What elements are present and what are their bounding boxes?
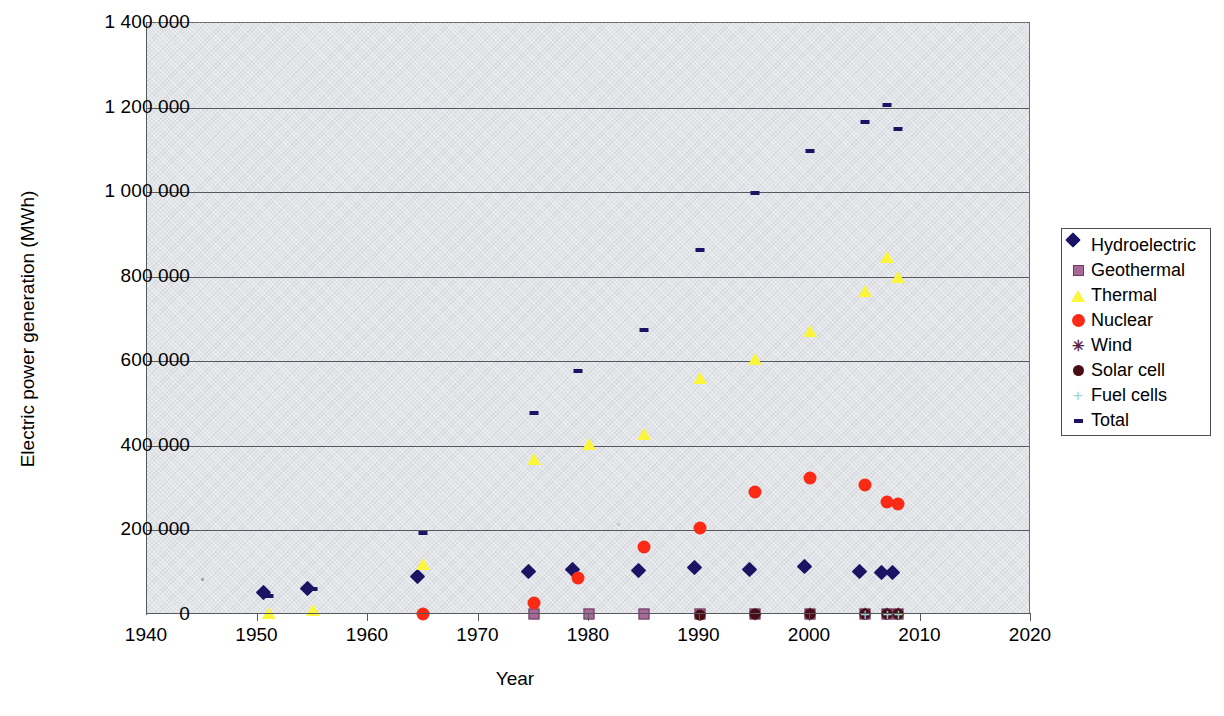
data-point xyxy=(638,541,651,554)
marker-triangle xyxy=(306,604,320,616)
data-point xyxy=(639,571,650,582)
x-axis-tick xyxy=(367,614,368,621)
marker-dash xyxy=(264,594,273,598)
legend-label: Solar cell xyxy=(1091,360,1165,381)
x-tick-label: 1970 xyxy=(456,624,498,646)
marker-triangle xyxy=(637,428,651,440)
y-axis-title: Electric power generation (MWh) xyxy=(17,49,39,609)
data-point xyxy=(637,428,651,440)
data-point xyxy=(892,498,905,511)
data-point xyxy=(419,531,428,535)
marker-plus: + xyxy=(1072,390,1084,402)
marker-dash xyxy=(695,248,704,252)
marker-diamond xyxy=(1065,232,1081,248)
data-point xyxy=(693,522,706,535)
y-tick-label: 800 000 xyxy=(60,265,190,287)
marker-dash xyxy=(419,531,428,535)
marker-circle-dark xyxy=(694,609,705,620)
x-tick-label: 1960 xyxy=(346,624,388,646)
legend-item-hydroelectric[interactable]: Hydroelectric xyxy=(1068,233,1210,258)
gridline xyxy=(147,108,1029,109)
legend-label: Thermal xyxy=(1091,285,1157,306)
marker-circle xyxy=(571,571,584,584)
legend-item-geothermal[interactable]: Geothermal xyxy=(1068,258,1210,283)
legend-label: Wind xyxy=(1091,335,1132,356)
y-tick-label: 400 000 xyxy=(60,434,190,456)
chart-legend: HydroelectricGeothermalThermalNuclear✳Wi… xyxy=(1061,228,1211,436)
marker-square xyxy=(1073,265,1084,276)
data-point xyxy=(573,369,582,373)
data-point xyxy=(694,609,705,620)
marker-diamond xyxy=(520,564,536,580)
marker-triangle xyxy=(693,372,707,384)
marker-dash xyxy=(806,149,815,153)
legend-item-fuel-cells[interactable]: +Fuel cells xyxy=(1068,383,1210,408)
data-point xyxy=(860,571,871,582)
y-tick-label: 200 000 xyxy=(60,518,190,540)
legend-item-solar-cell[interactable]: Solar cell xyxy=(1068,358,1210,383)
legend-marker-icon xyxy=(1068,311,1088,331)
data-point xyxy=(858,285,872,297)
data-point xyxy=(695,248,704,252)
data-point xyxy=(891,271,905,283)
data-point xyxy=(883,103,892,107)
legend-marker-icon xyxy=(1068,286,1088,306)
x-tick-label: 2010 xyxy=(898,624,940,646)
legend-item-total[interactable]: Total xyxy=(1068,408,1210,433)
legend-label: Total xyxy=(1091,410,1129,431)
legend-item-nuclear[interactable]: Nuclear xyxy=(1068,308,1210,333)
marker-diamond xyxy=(741,562,757,578)
marker-diamond xyxy=(631,563,647,579)
x-axis-tick xyxy=(809,614,810,621)
legend-item-thermal[interactable]: Thermal xyxy=(1068,283,1210,308)
marker-circle xyxy=(859,478,872,491)
marker-circle xyxy=(892,498,905,511)
data-point: + xyxy=(859,609,871,621)
marker-plus: + xyxy=(892,609,904,621)
legend-label: Fuel cells xyxy=(1091,385,1167,406)
marker-dash xyxy=(573,369,582,373)
marker-diamond xyxy=(410,569,426,585)
data-point xyxy=(416,558,430,570)
marker-triangle xyxy=(880,251,894,263)
data-point xyxy=(749,609,760,620)
artifact-speck xyxy=(201,578,204,581)
y-tick-label: 600 000 xyxy=(60,349,190,371)
x-axis-tick xyxy=(588,614,589,621)
artifact-speck xyxy=(617,523,620,526)
x-tick-label: 2000 xyxy=(788,624,830,646)
x-axis-tick xyxy=(478,614,479,621)
x-tick-label: 2020 xyxy=(1009,624,1051,646)
marker-circle xyxy=(527,597,540,610)
chart-figure: ✳✳✳✳✳+++ 0200 000400 000600 000800 0001 … xyxy=(0,0,1224,716)
legend-label: Hydroelectric xyxy=(1091,235,1196,256)
data-point xyxy=(803,325,817,337)
legend-marker-icon: + xyxy=(1068,386,1088,406)
legend-label: Geothermal xyxy=(1091,260,1185,281)
marker-circle-dark xyxy=(805,609,816,620)
x-axis-tick xyxy=(699,614,700,621)
data-point xyxy=(893,572,904,583)
x-tick-label: 1950 xyxy=(235,624,277,646)
data-point xyxy=(694,567,705,578)
marker-dash xyxy=(1074,419,1083,423)
data-point xyxy=(750,191,759,195)
legend-label: Nuclear xyxy=(1091,310,1153,331)
y-tick-label: 1 400 000 xyxy=(60,11,190,33)
data-point xyxy=(528,609,539,620)
gridline xyxy=(147,192,1029,193)
data-point xyxy=(640,328,649,332)
x-tick-label: 1940 xyxy=(125,624,167,646)
plot-area: ✳✳✳✳✳+++ xyxy=(146,22,1030,614)
marker-cross: ✳ xyxy=(1072,340,1084,352)
x-axis-tick xyxy=(1030,614,1031,621)
marker-diamond xyxy=(686,559,702,575)
x-tick-label: 1980 xyxy=(567,624,609,646)
data-point: + xyxy=(892,609,904,621)
data-point xyxy=(529,411,538,415)
legend-item-wind[interactable]: ✳Wind xyxy=(1068,333,1210,358)
data-point xyxy=(804,471,817,484)
marker-diamond xyxy=(852,564,868,580)
gridline xyxy=(147,530,1029,531)
marker-plus: + xyxy=(859,609,871,621)
